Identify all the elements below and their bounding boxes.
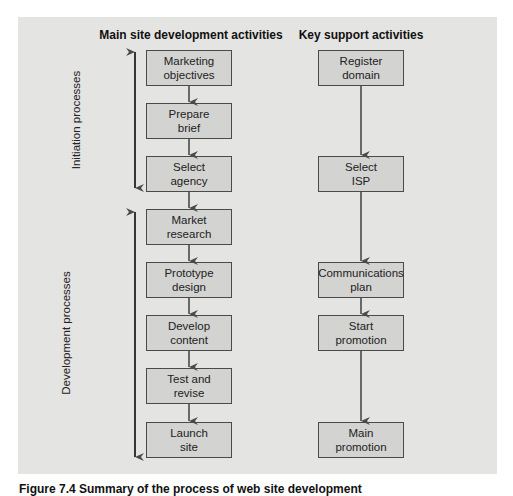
figure-caption: Figure 7.4 Summary of the process of web… <box>19 482 362 496</box>
initiation-phase-label: Initiation processes <box>70 65 82 175</box>
development-phase-label: Development processes <box>60 268 72 398</box>
